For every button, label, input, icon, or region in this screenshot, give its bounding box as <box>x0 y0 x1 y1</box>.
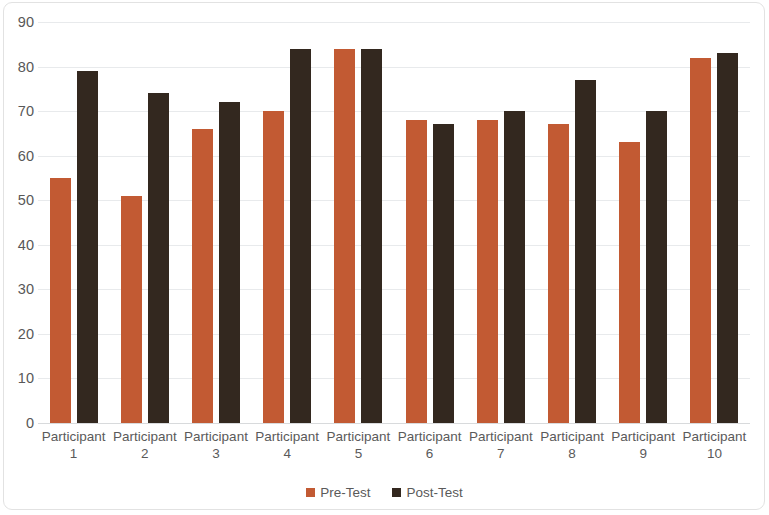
category-word: Participant <box>611 429 675 444</box>
x-axis-category-label: Participant10 <box>679 428 750 478</box>
y-axis-tick-label: 60 <box>4 148 34 163</box>
bar-group <box>465 22 536 423</box>
category-number: 5 <box>323 445 394 462</box>
category-word: Participant <box>113 429 177 444</box>
y-axis-tick-label: 40 <box>4 238 34 253</box>
bar-pre-test[interactable] <box>121 196 142 423</box>
category-word: Participant <box>469 429 533 444</box>
legend-label: Pre-Test <box>320 485 370 500</box>
category-number: 10 <box>679 445 750 462</box>
bar-group <box>109 22 180 423</box>
x-axis-category-label: Participant6 <box>394 428 465 478</box>
y-axis-tick-label: 50 <box>4 193 34 208</box>
category-number: 2 <box>109 445 180 462</box>
bar-pre-test[interactable] <box>406 120 427 423</box>
bar-pre-test[interactable] <box>548 124 569 423</box>
bar-group <box>180 22 251 423</box>
category-word: Participant <box>327 429 391 444</box>
category-number: 9 <box>608 445 679 462</box>
bar-post-test[interactable] <box>433 124 454 423</box>
bar-post-test[interactable] <box>148 93 169 423</box>
bar-group <box>38 22 109 423</box>
category-word: Participant <box>540 429 604 444</box>
category-number: 3 <box>180 445 251 462</box>
y-axis: 9080706050403020100 <box>0 22 34 423</box>
y-axis-tick-label: 10 <box>4 371 34 386</box>
bar-post-test[interactable] <box>646 111 667 423</box>
category-number: 8 <box>536 445 607 462</box>
bar-post-test[interactable] <box>717 53 738 423</box>
x-axis-category-label: Participant9 <box>608 428 679 478</box>
category-word: Participant <box>255 429 319 444</box>
bar-group <box>679 22 750 423</box>
bar-pre-test[interactable] <box>192 129 213 423</box>
gridline <box>38 423 750 424</box>
category-number: 1 <box>38 445 109 462</box>
category-word: Participant <box>42 429 106 444</box>
x-axis-category-label: Participant7 <box>465 428 536 478</box>
y-axis-tick-label: 80 <box>4 59 34 74</box>
bar-pre-test[interactable] <box>619 142 640 423</box>
x-axis-category-label: Participant1 <box>38 428 109 478</box>
category-word: Participant <box>683 429 747 444</box>
bar-group <box>394 22 465 423</box>
bar-group <box>323 22 394 423</box>
legend-item[interactable]: Pre-Test <box>306 485 370 500</box>
plot-area <box>38 22 750 423</box>
bar-post-test[interactable] <box>575 80 596 423</box>
bar-post-test[interactable] <box>290 49 311 423</box>
bar-chart: 9080706050403020100 Participant1Particip… <box>0 0 769 515</box>
category-number: 6 <box>394 445 465 462</box>
y-axis-tick-label: 90 <box>4 15 34 30</box>
bar-pre-test[interactable] <box>477 120 498 423</box>
bar-post-test[interactable] <box>361 49 382 423</box>
bar-series-layer <box>38 22 750 423</box>
bar-post-test[interactable] <box>504 111 525 423</box>
x-axis-category-label: Participant5 <box>323 428 394 478</box>
bar-pre-test[interactable] <box>690 58 711 423</box>
bar-group <box>608 22 679 423</box>
legend-label: Post-Test <box>406 485 462 500</box>
y-axis-tick-label: 30 <box>4 282 34 297</box>
category-number: 4 <box>252 445 323 462</box>
y-axis-tick-label: 0 <box>4 416 34 431</box>
bar-pre-test[interactable] <box>263 111 284 423</box>
x-axis-category-label: Participant4 <box>252 428 323 478</box>
category-word: Participant <box>184 429 248 444</box>
bar-group <box>536 22 607 423</box>
category-word: Participant <box>398 429 462 444</box>
bar-post-test[interactable] <box>219 102 240 423</box>
bar-post-test[interactable] <box>77 71 98 423</box>
chart-legend: Pre-TestPost-Test <box>0 485 769 500</box>
y-axis-tick-label: 20 <box>4 327 34 342</box>
x-axis-labels: Participant1Participant2Participant3Part… <box>38 428 750 478</box>
legend-swatch-icon <box>392 488 401 497</box>
legend-item[interactable]: Post-Test <box>392 485 462 500</box>
category-number: 7 <box>465 445 536 462</box>
x-axis-category-label: Participant2 <box>109 428 180 478</box>
bar-pre-test[interactable] <box>334 49 355 423</box>
legend-swatch-icon <box>306 488 315 497</box>
x-axis-category-label: Participant3 <box>180 428 251 478</box>
bar-group <box>252 22 323 423</box>
x-axis-category-label: Participant8 <box>536 428 607 478</box>
y-axis-tick-label: 70 <box>4 104 34 119</box>
bar-pre-test[interactable] <box>50 178 71 423</box>
